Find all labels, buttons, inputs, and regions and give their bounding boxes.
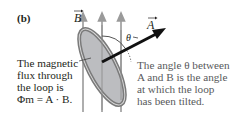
caption-line: The angle θ between <box>137 59 230 71</box>
flux-caption: The magnetic flux through the loop is Φm… <box>17 57 78 105</box>
flux-equation: Φm = A · B. <box>17 93 78 105</box>
angle-caption: The angle θ between A and B is the angle… <box>137 59 230 107</box>
caption-line: at which the loop <box>137 83 230 95</box>
caption-line: the loop is <box>17 81 78 93</box>
svg-text:A: A <box>146 18 155 32</box>
svg-text:θ: θ <box>126 32 131 43</box>
angle-label: θ <box>126 32 138 43</box>
caption-line: A and B is the angle <box>137 71 230 83</box>
svg-text:B: B <box>74 11 82 25</box>
caption-line: flux through <box>17 69 78 81</box>
area-vector <box>102 28 166 62</box>
caption-line: The magnetic <box>17 57 78 69</box>
caption-line: has been tilted. <box>137 95 230 107</box>
